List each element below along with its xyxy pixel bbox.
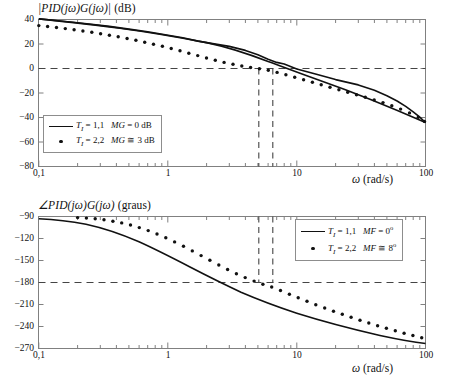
phase-x-tick-10: 10 <box>277 350 317 360</box>
dot-marker-key-icon <box>300 247 326 250</box>
phase-legend-label-1: TI = 1,1 MF = 0o <box>326 223 393 240</box>
phase-legend-label-2: TI = 2,2 MF ≅ 8o <box>326 240 396 257</box>
bode-plot-figure: |PID(jω)G(jω)| (dB) <box>0 0 449 381</box>
phase-plot-canvas <box>0 0 449 381</box>
phase-y-tick-neg150: −150 <box>0 255 34 265</box>
phase-x-tick-0p1: 0,1 <box>19 350 59 360</box>
phase-y-tick-neg240: −240 <box>0 321 34 331</box>
phase-legend-row-2: TI = 2,2 MF ≅ 8o <box>300 240 396 257</box>
phase-legend-row-1: TI = 1,1 MF = 0o <box>300 223 396 240</box>
phase-x-axis-symbol: ω <box>352 362 360 374</box>
solid-line-key-icon <box>300 231 326 232</box>
phase-x-tick-100: 100 <box>406 350 446 360</box>
phase-legend: TI = 1,1 MF = 0o TI = 2,2 MF ≅ 8o <box>295 219 403 261</box>
phase-y-tick-neg180: −180 <box>0 277 34 287</box>
phase-y-tick-neg210: −210 <box>0 299 34 309</box>
phase-y-tick-neg90: −90 <box>0 211 34 221</box>
phase-x-tick-1: 1 <box>148 350 188 360</box>
phase-x-axis-label: ω (rad/s) <box>352 362 393 374</box>
phase-y-tick-neg120: −120 <box>0 233 34 243</box>
phase-x-axis-unit: (rad/s) <box>363 362 393 374</box>
